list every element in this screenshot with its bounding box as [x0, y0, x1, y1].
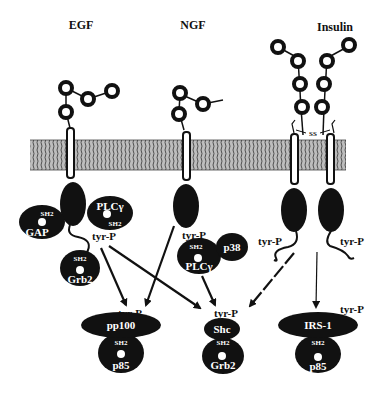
disulfide-label: SS	[309, 130, 317, 138]
egf-plcg-label: PLCγ	[96, 200, 123, 212]
egf-transmembrane	[67, 128, 74, 178]
egf-grb2-sh2-label: SH2	[74, 255, 87, 263]
egf-grb2-label: Grb2	[67, 273, 93, 285]
irs1-tyr-p-label: tyr-P	[340, 303, 364, 315]
egf-plcg-protein: PLCγ SH2	[87, 196, 133, 230]
ngf-title: NGF	[180, 18, 205, 32]
pp100-complex: tyr-P pp100 SH2 p85	[81, 307, 161, 373]
egf-receptor-extracellular	[60, 82, 118, 128]
pp100-label: pp100	[107, 319, 136, 331]
insulin-title: Insulin	[317, 20, 353, 34]
insulin-transmembrane-right	[327, 134, 334, 184]
pp100-sh2-label: SH2	[115, 339, 128, 347]
insulin-tyr-p-left: tyr-P	[258, 235, 282, 247]
irs1-sh2-label: SH2	[312, 339, 325, 347]
signaling-diagram: EGF NGF Insulin SH2 GAP PLCγ SH2 tyr-P	[0, 0, 384, 394]
gap-sh2-label: SH2	[41, 210, 54, 218]
ngf-transmembrane	[183, 132, 190, 180]
shc-tyr-p-label: tyr-P	[214, 307, 238, 319]
insulin-transmembrane-left	[291, 134, 298, 184]
egf-title: EGF	[69, 18, 94, 32]
gap-protein: SH2 GAP	[19, 205, 65, 239]
p38-label: p38	[223, 241, 241, 253]
insulin-kinase-right	[318, 188, 344, 232]
shc-sh2-label: SH2	[217, 339, 230, 347]
shc-complex: tyr-P Shc SH2 Grb2	[202, 307, 244, 374]
egf-grb2-protein: SH2 Grb2	[60, 250, 100, 286]
pp100-p85-label: p85	[112, 359, 130, 371]
irs1-label: IRS-1	[304, 319, 332, 331]
irs1-complex: tyr-P IRS-1 SH2 p85	[278, 303, 364, 373]
insulin-tyr-p-right: tyr-P	[340, 235, 364, 247]
shc-grb2-label: Grb2	[210, 359, 236, 371]
ngf-plcg-label: PLCγ	[185, 260, 212, 272]
irs1-p85-label: p85	[309, 360, 327, 372]
ngf-kinase-domain	[173, 184, 199, 228]
egf-plcg-sh2-label: SH2	[109, 220, 122, 228]
ngf-receptor-extracellular	[173, 87, 223, 130]
ngf-plcg-sh2-label: SH2	[190, 243, 203, 251]
ngf-plcg-protein: SH2 PLCγ	[177, 238, 221, 274]
insulin-kinase-left	[281, 188, 307, 232]
p38-protein: p38	[216, 233, 248, 261]
egf-tyr-p-label: tyr-P	[92, 230, 116, 242]
shc-label: Shc	[213, 323, 230, 335]
gap-label: GAP	[25, 226, 49, 238]
insulin-receptor-extracellular	[272, 39, 355, 135]
